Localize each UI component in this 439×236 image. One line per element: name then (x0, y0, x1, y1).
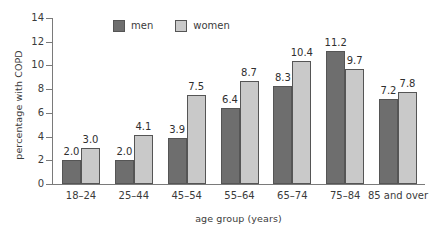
bar-women-5 (345, 69, 364, 184)
y-axis-tick-label: 8 (20, 84, 44, 94)
y-axis-tick-label: 4 (20, 132, 44, 142)
bar-women-1 (134, 135, 153, 184)
bar-men-5 (326, 51, 345, 184)
bar-men-0 (62, 160, 81, 184)
x-axis-category-label: 65–74 (264, 190, 320, 201)
bar-women-0 (81, 148, 100, 184)
y-axis-tick-label: 12 (20, 37, 44, 47)
bar-women-2 (187, 95, 206, 184)
x-axis-title: age group (years) (52, 213, 425, 224)
y-axis-tick-label: 2 (20, 155, 44, 165)
x-axis-category-label: 25–44 (106, 190, 162, 201)
bar-value-label: 4.1 (128, 122, 159, 132)
bar-men-3 (221, 108, 240, 184)
bar-value-label: 7.5 (181, 82, 212, 92)
x-axis-category-label: 55–64 (212, 190, 268, 201)
bar-men-4 (273, 86, 292, 184)
x-axis-category-label: 18–24 (53, 190, 109, 201)
x-axis-line (52, 184, 425, 185)
bar-women-6 (398, 92, 417, 184)
bar-men-2 (168, 138, 187, 184)
bar-women-4 (292, 61, 311, 184)
y-axis-tick-label: 6 (20, 108, 44, 118)
y-axis-tick-label: 14 (20, 13, 44, 23)
bar-chart: percentage with COPD 02468101214 men wom… (0, 0, 439, 236)
y-axis-tick-label: 10 (20, 60, 44, 70)
bar-women-3 (240, 81, 259, 184)
bar-men-6 (379, 99, 398, 184)
y-axis-tick-label: 0 (20, 179, 44, 189)
plot-area: 2.03.02.04.13.97.56.48.78.310.411.29.77.… (52, 18, 425, 184)
bar-value-label: 7.8 (392, 79, 423, 89)
bar-value-label: 9.7 (339, 56, 370, 66)
bar-value-label: 10.4 (286, 48, 317, 58)
bar-value-label: 11.2 (320, 38, 351, 48)
x-axis-category-label: 85 and over (358, 190, 438, 201)
bar-men-1 (115, 160, 134, 184)
bar-value-label: 3.0 (75, 135, 106, 145)
x-axis-category-label: 45–54 (159, 190, 215, 201)
bar-value-label: 8.7 (234, 68, 265, 78)
